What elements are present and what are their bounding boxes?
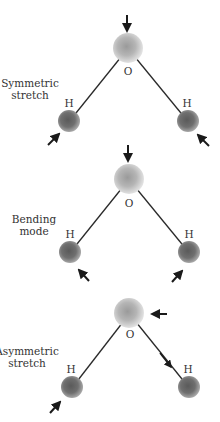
mode-label-line2: mode	[19, 225, 48, 237]
water-vibrational-modes-diagram: Symmetric stretch O H H Bending mode O H…	[0, 0, 220, 422]
oxygen-label: O	[126, 328, 135, 340]
arrow-down-right-icon	[160, 353, 171, 367]
arrow-up-right-icon	[50, 402, 60, 413]
bond-left	[73, 188, 122, 249]
oxygen-atom	[113, 33, 143, 63]
bond-right	[136, 188, 186, 249]
oxygen-label: O	[124, 65, 133, 77]
hydrogen-label-left: H	[66, 363, 75, 375]
mode-label-line2: stretch	[11, 89, 49, 101]
mode-label-line1: Asymmetric	[0, 345, 59, 357]
hydrogen-atom-right	[177, 110, 199, 132]
mode-label-line2: stretch	[8, 357, 46, 369]
mode-label-line1: Symmetric	[1, 77, 59, 89]
hydrogen-label-right: H	[184, 228, 193, 240]
hydrogen-atom-right	[178, 376, 200, 398]
oxygen-atom	[114, 164, 144, 194]
oxygen-atom	[114, 298, 144, 328]
hydrogen-atom-left	[61, 376, 83, 398]
hydrogen-label-left: H	[65, 228, 74, 240]
arrow-up-left-icon	[198, 135, 209, 146]
hydrogen-atom-left	[59, 241, 81, 263]
panel-bending-mode: Bending mode O H H	[12, 145, 200, 282]
hydrogen-atom-right	[178, 241, 200, 263]
mode-label-line1: Bending	[12, 213, 57, 225]
hydrogen-label-right: H	[183, 363, 192, 375]
hydrogen-atom-left	[58, 110, 80, 132]
bond-left	[75, 322, 123, 384]
hydrogen-label-right: H	[182, 97, 191, 109]
panel-symmetric-stretch: Symmetric stretch O H H	[1, 15, 209, 146]
arrow-up-right-icon	[48, 134, 59, 145]
bond-left	[72, 57, 121, 118]
hydrogen-label-left: H	[64, 97, 73, 109]
bond-right	[135, 57, 185, 118]
oxygen-label: O	[125, 197, 134, 209]
panel-asymmetric-stretch: Asymmetric stretch O H H	[0, 298, 200, 413]
arrow-up-right-icon	[172, 271, 182, 282]
arrow-up-left-icon	[79, 270, 89, 281]
